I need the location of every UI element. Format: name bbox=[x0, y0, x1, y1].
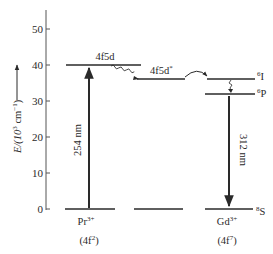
y-axis-label: E/(103 cm−1) bbox=[11, 99, 24, 154]
tick-0: 0 bbox=[38, 203, 44, 215]
label-4f5d: 4f5d bbox=[95, 51, 115, 62]
label-gd-config: (4f7) bbox=[217, 234, 237, 247]
label-8S: 8S bbox=[256, 205, 266, 217]
wavy-6I-6P-arrow bbox=[229, 80, 232, 90]
label-4f5d-star: 4f5d* bbox=[150, 64, 173, 76]
tick-50: 50 bbox=[32, 23, 44, 35]
label-pr-config: (4f2) bbox=[79, 234, 99, 247]
label-6I: 6I bbox=[257, 70, 265, 82]
label-pr-ion: Pr3+ bbox=[78, 215, 95, 227]
label-6P: 6P bbox=[257, 87, 267, 99]
tick-20: 20 bbox=[32, 131, 44, 143]
tick-40: 40 bbox=[32, 59, 44, 71]
label-254nm: 254 nm bbox=[72, 124, 83, 156]
y-axis: 0 10 20 30 40 50 bbox=[32, 10, 50, 215]
energy-level-diagram: 0 10 20 30 40 50 E/(103 cm−1) 4f5d 254 n… bbox=[0, 0, 273, 254]
label-gd-ion: Gd3+ bbox=[217, 215, 237, 227]
label-312nm: 312 nm bbox=[238, 134, 249, 166]
svg-text:E/(103 cm−1): E/(103 cm−1) bbox=[11, 99, 24, 154]
energy-transfer-arrow bbox=[185, 71, 207, 77]
wavy-6I-6P-arrowhead-icon bbox=[228, 89, 233, 93]
tick-10: 10 bbox=[32, 167, 44, 179]
tick-30: 30 bbox=[32, 95, 44, 107]
wavy-relaxation-arrow bbox=[111, 65, 135, 74]
